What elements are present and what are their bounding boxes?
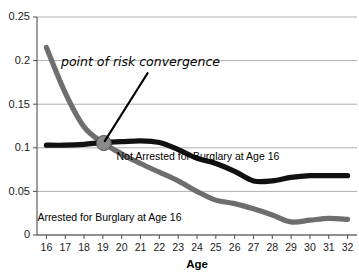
x-tick-label: 18 [78, 241, 90, 253]
x-tick-label: 20 [116, 241, 128, 253]
risk-convergence-line-chart: 00.050.10.150.20.25 16171819202122232425… [0, 0, 359, 274]
series-inline-label: Arrested for Burglary at Age 16 [37, 211, 181, 223]
convergence-point-marker [96, 136, 111, 151]
series-inline-labels: Not Arrested for Burglary at Age 16Arres… [37, 150, 279, 222]
annotation-label: point of risk convergence [60, 54, 220, 69]
chart-container: 00.050.10.150.20.25 16171819202122232425… [0, 0, 359, 274]
x-tick-label: 32 [342, 241, 354, 253]
series-line [46, 48, 347, 223]
axes [33, 17, 357, 239]
x-tick-label: 16 [41, 241, 53, 253]
x-tick-label: 30 [304, 241, 316, 253]
x-axis-title: Age [186, 258, 208, 270]
x-tick-label: 22 [154, 241, 166, 253]
x-axis-tick-labels: 1617181920212223242526272829303132 [41, 241, 354, 253]
x-tick-label: 26 [229, 241, 241, 253]
x-tick-label: 21 [135, 241, 147, 253]
annotations: point of risk convergence [60, 54, 220, 150]
y-tick-label: 0 [24, 228, 30, 240]
y-tick-label: 0.1 [15, 141, 30, 153]
x-tick-label: 27 [248, 241, 260, 253]
x-tick-label: 31 [323, 241, 335, 253]
y-axis-tick-labels: 00.050.10.150.20.25 [9, 10, 30, 240]
series-inline-label: Not Arrested for Burglary at Age 16 [117, 150, 280, 162]
y-tick-label: 0.25 [9, 10, 30, 22]
y-tick-label: 0.05 [9, 185, 30, 197]
x-tick-label: 19 [97, 241, 109, 253]
x-tick-label: 29 [285, 241, 297, 253]
x-tick-label: 28 [266, 241, 278, 253]
annotation-leader-line [105, 73, 148, 141]
data-series [46, 48, 347, 223]
y-tick-label: 0.2 [15, 54, 30, 66]
x-tick-label: 23 [172, 241, 184, 253]
x-tick-label: 24 [191, 241, 203, 253]
x-tick-label: 25 [210, 241, 222, 253]
y-tick-label: 0.15 [9, 98, 30, 110]
x-tick-label: 17 [59, 241, 71, 253]
